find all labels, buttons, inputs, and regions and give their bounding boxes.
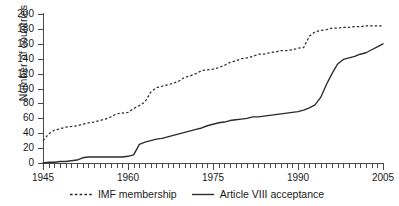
- x-axis-minor-tick: [202, 164, 203, 168]
- x-axis-minor-tick: [355, 164, 356, 168]
- x-axis-minor-tick: [372, 164, 373, 168]
- x-axis-minor-tick: [54, 164, 55, 168]
- x-axis-minor-tick: [230, 164, 231, 168]
- x-axis-minor-tick: [168, 164, 169, 168]
- y-axis-tick-label: 80: [4, 98, 34, 108]
- x-axis-minor-tick: [287, 164, 288, 168]
- x-axis-minor-tick: [236, 164, 237, 168]
- y-axis-tick-label: 20: [4, 143, 34, 153]
- x-axis-minor-tick: [304, 164, 305, 168]
- y-axis-tick-label: 60: [4, 113, 34, 123]
- x-axis-minor-tick: [281, 164, 282, 168]
- x-axis-minor-tick: [196, 164, 197, 168]
- x-axis-minor-tick: [117, 164, 118, 168]
- x-axis-minor-tick: [190, 164, 191, 168]
- x-axis-minor-tick: [88, 164, 89, 168]
- x-axis-tick-label: 1990: [276, 172, 320, 183]
- series-line-imf-membership: [43, 26, 383, 141]
- chart-plot-area: [43, 14, 383, 163]
- solid-line-icon: [192, 191, 214, 198]
- x-axis-tick-label: 1960: [106, 172, 150, 183]
- y-axis-tick-label: 140: [4, 54, 34, 64]
- x-axis-minor-tick: [77, 164, 78, 168]
- y-axis-tick-label: 160: [4, 39, 34, 49]
- x-axis-tick-label: 1945: [21, 172, 65, 183]
- x-axis-minor-tick: [122, 164, 123, 168]
- x-axis-minor-tick: [145, 164, 146, 168]
- x-axis-minor-tick: [343, 164, 344, 168]
- x-axis-minor-tick: [241, 164, 242, 168]
- x-axis-minor-tick: [71, 164, 72, 168]
- x-axis-minor-tick: [207, 164, 208, 168]
- x-axis-tick-label: 1975: [191, 172, 235, 183]
- x-axis-minor-tick: [349, 164, 350, 168]
- x-axis-minor-tick: [338, 164, 339, 168]
- x-axis-major-tick: [383, 164, 384, 170]
- legend-item-article-viii-acceptance: Article VIII acceptance: [192, 188, 324, 200]
- x-axis-tick-label: 2005: [361, 172, 399, 183]
- y-axis-tick-label: 200: [4, 9, 34, 19]
- series-line-article-viii-acceptance: [43, 44, 383, 163]
- x-axis-minor-tick: [321, 164, 322, 168]
- x-axis-minor-tick: [258, 164, 259, 168]
- y-axis-tick-label: 180: [4, 24, 34, 34]
- legend-label-imf-membership: IMF membership: [98, 188, 177, 200]
- x-axis-minor-tick: [219, 164, 220, 168]
- x-axis-minor-tick: [270, 164, 271, 168]
- x-axis-minor-tick: [360, 164, 361, 168]
- legend-label-article-viii-acceptance: Article VIII acceptance: [220, 188, 324, 200]
- x-axis-minor-tick: [292, 164, 293, 168]
- x-axis-minor-tick: [173, 164, 174, 168]
- x-axis-minor-tick: [224, 164, 225, 168]
- x-axis-minor-tick: [253, 164, 254, 168]
- y-axis-tick-label: 100: [4, 84, 34, 94]
- x-axis-minor-tick: [179, 164, 180, 168]
- x-axis-minor-tick: [105, 164, 106, 168]
- chart-legend: IMF membership Article VIII acceptance: [0, 188, 394, 200]
- x-axis-minor-tick: [315, 164, 316, 168]
- y-axis-tick-label: 40: [4, 128, 34, 138]
- x-axis-minor-tick: [111, 164, 112, 168]
- x-axis-minor-tick: [139, 164, 140, 168]
- x-axis-minor-tick: [366, 164, 367, 168]
- x-axis-minor-tick: [83, 164, 84, 168]
- x-axis-minor-tick: [134, 164, 135, 168]
- x-axis-major-tick: [298, 164, 299, 170]
- y-axis-tick-label: 0: [4, 158, 34, 168]
- x-axis-minor-tick: [332, 164, 333, 168]
- x-axis-minor-tick: [309, 164, 310, 168]
- x-axis-minor-tick: [49, 164, 50, 168]
- x-axis-major-tick: [128, 164, 129, 170]
- x-axis-minor-tick: [247, 164, 248, 168]
- x-axis-major-tick: [43, 164, 44, 170]
- x-axis-minor-tick: [94, 164, 95, 168]
- x-axis-minor-tick: [66, 164, 67, 168]
- legend-item-imf-membership: IMF membership: [70, 188, 177, 200]
- x-axis-minor-tick: [185, 164, 186, 168]
- x-axis-minor-tick: [275, 164, 276, 168]
- y-axis-tick-label: 120: [4, 69, 34, 79]
- x-axis-minor-tick: [162, 164, 163, 168]
- x-axis-minor-tick: [156, 164, 157, 168]
- x-axis-minor-tick: [326, 164, 327, 168]
- x-axis-minor-tick: [100, 164, 101, 168]
- x-axis-major-tick: [213, 164, 214, 170]
- x-axis-minor-tick: [151, 164, 152, 168]
- x-axis-minor-tick: [264, 164, 265, 168]
- x-axis-minor-tick: [377, 164, 378, 168]
- x-axis-minor-tick: [60, 164, 61, 168]
- dashed-line-icon: [70, 191, 92, 198]
